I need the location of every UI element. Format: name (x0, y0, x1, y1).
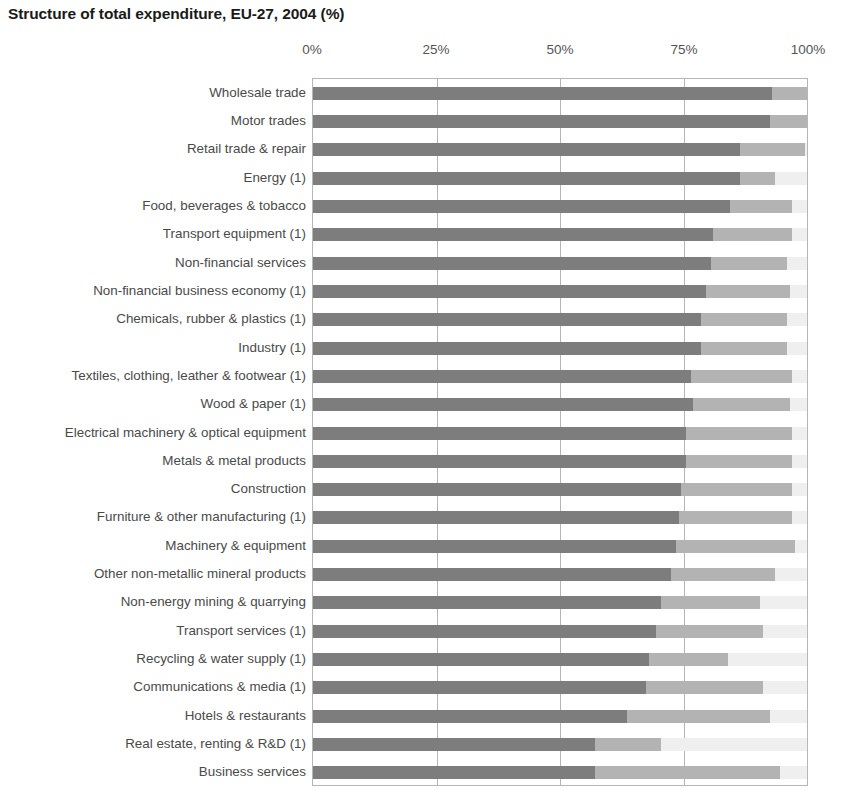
bar-row (313, 738, 807, 751)
category-labels-layer: Wholesale tradeMotor tradesRetail trade … (0, 78, 306, 786)
bar-segment-1 (313, 342, 701, 355)
bar-segment-3 (792, 370, 807, 383)
category-label: Textiles, clothing, leather & footwear (… (0, 368, 306, 383)
category-label: Transport services (1) (0, 623, 306, 638)
category-label: Business services (0, 764, 306, 779)
category-label: Chemicals, rubber & plastics (1) (0, 311, 306, 326)
category-label: Recycling & water supply (1) (0, 651, 306, 666)
bar-segment-3 (763, 681, 807, 694)
bar-segment-1 (313, 455, 686, 468)
bar-segment-2 (693, 398, 789, 411)
bar-segment-2 (730, 200, 792, 213)
category-label: Retail trade & repair (0, 141, 306, 156)
category-label: Hotels & restaurants (0, 708, 306, 723)
category-label: Transport equipment (1) (0, 226, 306, 241)
bar-segment-1 (313, 625, 656, 638)
bar-segment-3 (795, 540, 807, 553)
category-label: Non-financial business economy (1) (0, 283, 306, 298)
bar-segment-1 (313, 257, 711, 270)
category-label: Other non-metallic mineral products (0, 566, 306, 581)
x-tick-label-4: 100% (791, 42, 826, 57)
category-label: Industry (1) (0, 340, 306, 355)
bar-row (313, 427, 807, 440)
bar-segment-2 (627, 710, 770, 723)
bar-segment-2 (676, 540, 795, 553)
bar-segment-2 (713, 228, 792, 241)
bar-row (313, 172, 807, 185)
bar-segment-3 (787, 257, 807, 270)
bar-segment-1 (313, 540, 676, 553)
bar-row (313, 370, 807, 383)
category-label: Communications & media (1) (0, 679, 306, 694)
bar-segment-1 (313, 511, 679, 524)
category-label: Non-energy mining & quarrying (0, 594, 306, 609)
bar-row (313, 342, 807, 355)
plot-area (312, 78, 808, 786)
bar-row (313, 568, 807, 581)
bar-segment-3 (661, 738, 807, 751)
bar-segment-3 (770, 710, 807, 723)
bar-segment-3 (728, 653, 807, 666)
page-title: Structure of total expenditure, EU-27, 2… (8, 5, 344, 23)
bar-segment-2 (686, 427, 792, 440)
bar-row (313, 285, 807, 298)
category-label: Metals & metal products (0, 453, 306, 468)
bar-row (313, 653, 807, 666)
bar-segment-1 (313, 228, 713, 241)
bar-row (313, 511, 807, 524)
bar-segment-3 (787, 342, 807, 355)
x-tick-label-1: 25% (422, 42, 449, 57)
bar-segment-2 (770, 115, 807, 128)
bar-segment-1 (313, 766, 595, 779)
bar-row (313, 398, 807, 411)
bar-segment-2 (656, 625, 762, 638)
bar-segment-2 (686, 455, 792, 468)
x-tick-label-3: 75% (670, 42, 697, 57)
bar-row (313, 766, 807, 779)
chart-container: Structure of total expenditure, EU-27, 2… (0, 0, 844, 807)
category-label: Wood & paper (1) (0, 396, 306, 411)
bar-segment-2 (691, 370, 792, 383)
bar-segment-3 (787, 313, 807, 326)
bar-segment-2 (740, 172, 775, 185)
x-tick-label-0: 0% (302, 42, 322, 57)
bar-row (313, 313, 807, 326)
bar-row (313, 596, 807, 609)
bar-segment-2 (679, 511, 793, 524)
bar-segment-1 (313, 313, 701, 326)
bar-row (313, 115, 807, 128)
category-label: Wholesale trade (0, 85, 306, 100)
bar-segment-3 (775, 172, 807, 185)
bar-segment-2 (646, 681, 762, 694)
category-label: Machinery & equipment (0, 538, 306, 553)
bar-row (313, 143, 807, 156)
bar-segment-3 (775, 568, 807, 581)
bar-row (313, 625, 807, 638)
bar-segment-2 (711, 257, 788, 270)
bar-segment-3 (792, 200, 807, 213)
bar-segment-2 (681, 483, 792, 496)
bar-segment-1 (313, 115, 770, 128)
category-label: Furniture & other manufacturing (1) (0, 509, 306, 524)
bar-row (313, 228, 807, 241)
bar-segment-2 (671, 568, 775, 581)
bar-segment-2 (701, 342, 787, 355)
bar-segment-3 (790, 285, 807, 298)
bar-segment-1 (313, 653, 649, 666)
bar-segment-3 (790, 398, 807, 411)
bar-segment-3 (805, 143, 807, 156)
bar-segment-3 (760, 596, 807, 609)
bar-segment-1 (313, 285, 706, 298)
bar-segment-2 (706, 285, 790, 298)
bar-segment-3 (780, 766, 807, 779)
bar-segment-2 (661, 596, 760, 609)
bar-segment-1 (313, 681, 646, 694)
bar-segment-3 (792, 511, 807, 524)
x-tick-label-2: 50% (546, 42, 573, 57)
x-axis-tick-labels: 0%25%50%75%100% (312, 42, 808, 64)
category-label: Motor trades (0, 113, 306, 128)
category-label: Food, beverages & tobacco (0, 198, 306, 213)
bar-segment-2 (595, 766, 780, 779)
bar-row (313, 483, 807, 496)
bar-row (313, 200, 807, 213)
